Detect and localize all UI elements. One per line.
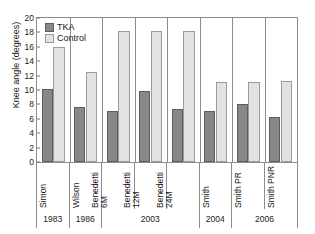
y-tick-label: 12	[25, 71, 34, 81]
y-axis-title: Knee angle (degrees)	[11, 0, 25, 135]
bar-group	[167, 18, 200, 162]
x-category-label: Simon	[39, 184, 48, 208]
y-tick-label: 4	[29, 128, 34, 138]
y-tick-label: 14	[25, 56, 34, 66]
category-separator	[265, 18, 266, 162]
category-separator	[135, 18, 136, 162]
category-separator	[232, 18, 233, 162]
bar-group	[102, 18, 135, 162]
x-category-label: Wilson	[72, 182, 81, 208]
x-category-label: Benedetti6M	[91, 172, 109, 208]
y-tick-label: 20	[25, 13, 34, 23]
plot-area: 02468101214161820 TKA Control	[36, 17, 298, 163]
bar-ctl-6	[248, 82, 259, 162]
bar-tka-6	[237, 104, 248, 162]
category-separator	[102, 18, 103, 162]
y-tick-label: 2	[29, 143, 34, 153]
x-year-cell: 2004	[200, 209, 233, 228]
x-category-label: Smith	[202, 186, 211, 208]
bar-tka-7	[269, 117, 280, 162]
bar-tka-1	[74, 107, 85, 162]
x-year-cell: 1986	[70, 209, 103, 228]
x-category-cell: Simon	[37, 163, 70, 209]
bar-ctl-0	[53, 47, 64, 162]
x-year-cell: 1983	[37, 209, 70, 228]
y-tick-label: 6	[29, 114, 34, 124]
chart-figure: Knee angle (degrees) 02468101214161820 T…	[0, 0, 315, 234]
bar-group	[200, 18, 233, 162]
x-category-cell: Smith PR	[232, 163, 265, 209]
bar-ctl-2	[118, 31, 129, 162]
x-category-label: Smith PNR	[267, 166, 276, 208]
bar-ctl-5	[216, 82, 227, 162]
legend-swatch-tka	[45, 23, 54, 32]
bar-tka-3	[139, 91, 150, 162]
bar-tka-5	[204, 111, 215, 162]
bar-tka-4	[172, 109, 183, 162]
legend-label-control: Control	[57, 33, 86, 44]
x-year-cell: 2006	[232, 209, 297, 228]
bar-ctl-7	[281, 81, 292, 162]
x-category-label: Benedetti12M	[123, 172, 141, 208]
bar-tka-0	[42, 89, 53, 162]
x-axis-category-band: SimonWilsonBenedetti6MBenedetti12MBenede…	[36, 163, 298, 209]
category-separator	[167, 18, 168, 162]
x-category-cell: Smith	[200, 163, 233, 209]
y-tick-label: 18	[25, 27, 34, 37]
bar-ctl-3	[151, 31, 162, 162]
bar-group	[265, 18, 298, 162]
y-tick-label: 0	[29, 157, 34, 167]
x-axis-year-band: 19831986200320042006	[36, 209, 298, 228]
bar-ctl-1	[86, 72, 97, 162]
x-year-label: 2006	[255, 214, 274, 224]
x-year-label: 1983	[43, 214, 62, 224]
y-tick-label: 10	[25, 85, 34, 95]
bar-group	[232, 18, 265, 162]
legend-label-tka: TKA	[57, 22, 75, 33]
bar-tka-2	[107, 111, 118, 162]
x-category-cell: Smith PNR	[265, 163, 298, 209]
y-tick-label: 16	[25, 42, 34, 52]
bar-group	[135, 18, 168, 162]
bar-ctl-4	[183, 31, 194, 162]
x-year-label: 1986	[76, 214, 95, 224]
legend: TKA Control	[45, 22, 86, 44]
legend-item-control: Control	[45, 33, 86, 44]
x-category-label: Benedetti24M	[156, 172, 174, 208]
category-separator	[200, 18, 201, 162]
x-category-label: Smith PR	[234, 172, 243, 208]
legend-item-tka: TKA	[45, 22, 86, 33]
y-tick-label: 8	[29, 99, 34, 109]
x-year-label: 2003	[141, 214, 160, 224]
legend-swatch-control	[45, 34, 54, 43]
x-year-cell: 2003	[102, 209, 200, 228]
x-year-label: 2004	[206, 214, 225, 224]
x-category-cell: Benedetti24M	[167, 163, 200, 209]
